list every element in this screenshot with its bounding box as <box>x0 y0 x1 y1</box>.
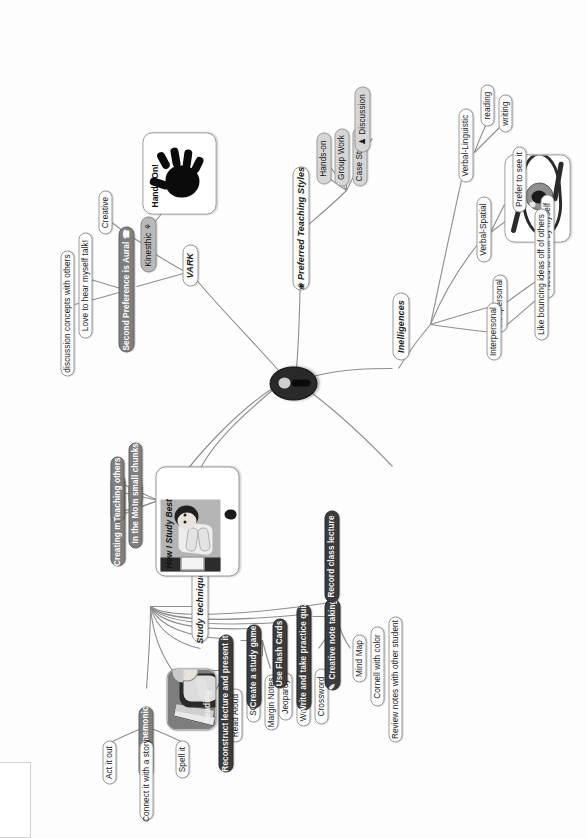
node-cornell-with-color[interactable]: Cornell with color <box>370 626 384 706</box>
node-second-preference-aural-label: Second Preference is Aural <box>122 241 131 350</box>
node-interpersonal[interactable]: Interpersonal <box>486 302 501 360</box>
node-act-it-out[interactable]: Act it out <box>102 740 116 784</box>
person-body-icon <box>291 379 310 386</box>
branch-intelligences[interactable]: Inelligences <box>392 292 409 360</box>
reading-caption: Reading <box>201 689 211 723</box>
apple-icon: ❀ <box>297 283 305 290</box>
node-kinesthic[interactable]: Kinesthic ⚘ <box>140 216 156 272</box>
node-verbal-linguistic[interactable]: Verbal-Linguistic <box>458 108 473 182</box>
node-group-work[interactable]: Group Work <box>334 128 349 186</box>
node-love-to-hear-myself-talk[interactable]: Love to hear myself talk! <box>78 232 92 338</box>
node-record-class-lecture[interactable]: Record class lecture <box>324 510 339 602</box>
branch-preferred-teaching-styles[interactable]: ❀ Preferred Teaching Styles <box>292 166 309 290</box>
node-connect-it-with-a-story[interactable]: Connect it with a story <box>139 740 153 820</box>
node-second-preference-aural[interactable]: Second Preference is Aural ☎ <box>118 226 134 352</box>
runner-icon: ⚘ <box>144 222 152 229</box>
node-spell-it[interactable]: Spell it <box>175 740 189 778</box>
node-writing[interactable]: writing <box>498 94 512 132</box>
node-reading[interactable]: reading <box>480 84 494 126</box>
node-creative[interactable]: Creative <box>98 190 112 234</box>
node-discussion-label: Discussion <box>358 94 367 135</box>
node-review-notes-other-student[interactable]: Review notes with other student <box>388 616 402 742</box>
corner-frame <box>0 762 31 838</box>
node-prefer-to-see-it[interactable]: Prefer to see it <box>512 146 526 212</box>
mindmap-canvas: Study techniques Make it Mnemonic Act it… <box>0 0 587 838</box>
node-creative-note-taking-label: Creative note taking <box>328 599 337 679</box>
node-write-practice-quiz[interactable]: Write and take practice quiz <box>296 604 311 710</box>
branch-study-techniques[interactable]: Study techniques <box>191 568 208 642</box>
node-mind-map[interactable]: Mind Map <box>352 634 366 682</box>
mindmap-rotated-layer: Study techniques Make it Mnemonic Act it… <box>0 0 587 838</box>
node-use-flash-cards[interactable]: Use Flash Cards <box>272 618 287 688</box>
picture-how-i-study-best: How I Study Best <box>155 466 239 576</box>
node-verbal-spatial[interactable]: Verbal-Spatial <box>476 196 491 262</box>
pencil-icon: ✎ <box>328 682 336 689</box>
picture-hands-on: Hands-On! <box>142 132 216 214</box>
node-kinesthic-label: Kinesthic <box>144 232 153 266</box>
node-teaching-others[interactable]: Teaching others <box>110 456 124 522</box>
branch-preferred-teaching-styles-label: Preferred Teaching Styles <box>296 166 305 279</box>
node-create-a-study-game[interactable]: Create a study game <box>246 624 261 708</box>
node-discussion-concepts[interactable]: discussion concepts with others <box>60 250 74 376</box>
node-reconstruct-lecture[interactable]: Reconstruct lecture and present it <box>218 634 233 772</box>
node-creative-note-taking[interactable]: ✎ Creative note taking <box>324 598 340 690</box>
how-i-study-best-caption: How I Study Best <box>163 499 173 568</box>
people-icon: ♟ <box>358 137 366 144</box>
picture-reading: Reading <box>166 668 216 730</box>
person-icon <box>278 377 290 388</box>
node-in-small-chunks[interactable]: In small chunks <box>128 442 142 506</box>
node-hands-on[interactable]: Hands-on <box>316 132 331 184</box>
branch-vark[interactable]: VARK <box>182 244 198 286</box>
hands-on-caption: Hands-On! <box>149 164 159 207</box>
node-discussion[interactable]: ♟ Discussion <box>354 86 370 152</box>
root-node[interactable] <box>269 366 317 400</box>
phone-icon: ☎ <box>122 228 130 238</box>
node-like-bouncing-ideas[interactable]: Like bouncing ideas off of others <box>534 208 548 340</box>
